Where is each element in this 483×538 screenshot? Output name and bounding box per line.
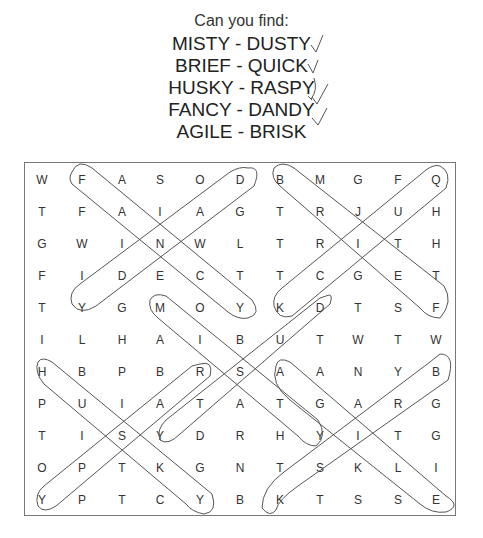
- grid-cell: T: [225, 266, 255, 286]
- grid-cell: G: [225, 202, 255, 222]
- grid-cell: I: [145, 202, 175, 222]
- grid-cell: A: [107, 170, 137, 190]
- grid-cell: A: [305, 362, 335, 382]
- grid-cell: H: [107, 330, 137, 350]
- grid-cell: B: [67, 362, 97, 382]
- grid-cell: S: [383, 490, 413, 510]
- grid-cell: D: [305, 298, 335, 318]
- grid-cell: B: [265, 170, 295, 190]
- grid-cell: I: [67, 266, 97, 286]
- grid-cell: S: [225, 362, 255, 382]
- grid-cell: W: [343, 330, 373, 350]
- grid-cell: D: [107, 266, 137, 286]
- grid-cell: F: [421, 298, 451, 318]
- grid-cell: B: [225, 330, 255, 350]
- word-pair: FANCY - DANDY: [0, 99, 483, 121]
- grid-cell: A: [107, 202, 137, 222]
- grid-cell: T: [265, 394, 295, 414]
- grid-cell: Y: [225, 298, 255, 318]
- grid-cell: R: [383, 394, 413, 414]
- grid-cell: K: [265, 298, 295, 318]
- grid-cell: T: [305, 490, 335, 510]
- grid-cell: B: [145, 362, 175, 382]
- grid-cell: N: [343, 362, 373, 382]
- grid-cell: Y: [185, 490, 215, 510]
- word-pair: AGILE - BRISK: [0, 121, 483, 143]
- grid-cell: Y: [305, 426, 335, 446]
- grid-cell: T: [383, 330, 413, 350]
- grid-cell: I: [343, 426, 373, 446]
- grid-cell: G: [343, 170, 373, 190]
- grid-cell: T: [107, 458, 137, 478]
- word-pair-label: HUSKY - RASPY: [168, 77, 314, 99]
- grid-cell: S: [383, 298, 413, 318]
- grid-cell: H: [421, 202, 451, 222]
- grid-cell: F: [67, 170, 97, 190]
- grid-cell: I: [67, 426, 97, 446]
- grid-cell: J: [343, 202, 373, 222]
- grid-cell: N: [225, 458, 255, 478]
- grid-cell: W: [27, 170, 57, 190]
- grid-cell: B: [225, 490, 255, 510]
- grid-cell: C: [145, 490, 175, 510]
- grid-cell: B: [421, 362, 451, 382]
- grid-cell: D: [185, 426, 215, 446]
- grid-cell: T: [185, 394, 215, 414]
- grid-cell: T: [343, 298, 373, 318]
- grid-cell: I: [185, 330, 215, 350]
- grid-cell: P: [27, 394, 57, 414]
- grid-cell: S: [145, 170, 175, 190]
- grid-cell: I: [27, 330, 57, 350]
- word-pair: MISTY - DUSTY: [0, 33, 483, 55]
- grid-cell: Y: [27, 490, 57, 510]
- grid-cell: C: [305, 266, 335, 286]
- grid-cell: K: [145, 458, 175, 478]
- grid-cell: I: [421, 458, 451, 478]
- grid-cell: G: [421, 394, 451, 414]
- grid-cell: T: [265, 234, 295, 254]
- grid-cell: F: [27, 266, 57, 286]
- grid-cell: P: [67, 490, 97, 510]
- grid-cell: G: [421, 426, 451, 446]
- grid-cell: Y: [67, 298, 97, 318]
- grid-cell: T: [107, 490, 137, 510]
- grid-cell: N: [145, 234, 175, 254]
- grid-cell: T: [383, 426, 413, 446]
- grid-cell: K: [265, 490, 295, 510]
- grid-cell: L: [67, 330, 97, 350]
- grid-cell: T: [383, 234, 413, 254]
- grid-cell: A: [185, 202, 215, 222]
- grid-cell: W: [185, 234, 215, 254]
- grid-cell: L: [225, 234, 255, 254]
- grid-cell: A: [145, 330, 175, 350]
- word-pair-label: AGILE - BRISK: [177, 121, 307, 143]
- grid-cell: U: [383, 202, 413, 222]
- grid-cell: W: [67, 234, 97, 254]
- grid-cell: E: [421, 490, 451, 510]
- grid-cell: I: [343, 234, 373, 254]
- grid-cell: T: [421, 266, 451, 286]
- grid-cell: T: [27, 426, 57, 446]
- grid-cell: C: [185, 266, 215, 286]
- grid-cell: E: [383, 266, 413, 286]
- grid-cell: I: [107, 234, 137, 254]
- grid-cell: T: [265, 202, 295, 222]
- grid-cell: P: [67, 458, 97, 478]
- word-pair-label: FANCY - DANDY: [168, 99, 314, 121]
- word-pair-label: MISTY - DUSTY: [172, 33, 311, 55]
- grid-cell: W: [421, 330, 451, 350]
- grid-cell: M: [305, 170, 335, 190]
- grid-cell: T: [27, 298, 57, 318]
- grid-cell: A: [145, 394, 175, 414]
- grid-cell: S: [107, 426, 137, 446]
- grid-cell: Q: [421, 170, 451, 190]
- word-list-header: Can you find: MISTY - DUSTY BRIEF - QUIC…: [0, 0, 483, 150]
- word-pair: BRIEF - QUICK: [0, 55, 483, 77]
- grid-cell: T: [265, 458, 295, 478]
- grid-cell: O: [185, 170, 215, 190]
- grid-cell: O: [185, 298, 215, 318]
- word-pair-label: BRIEF - QUICK: [175, 55, 308, 77]
- grid-cell: D: [225, 170, 255, 190]
- grid-cell: L: [383, 458, 413, 478]
- grid-cell: H: [27, 362, 57, 382]
